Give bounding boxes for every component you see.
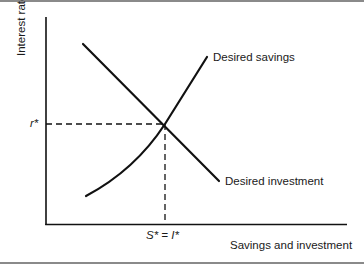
- equilibrium-quantity-label: S* = I*: [146, 230, 179, 242]
- r-star-label: r*: [30, 118, 38, 130]
- desired-investment-line: [83, 44, 219, 181]
- desired-savings-label: Desired savings: [213, 52, 295, 64]
- y-axis-label: Interest rate: [16, 0, 28, 56]
- x-axis-label: Savings and investment: [230, 240, 352, 252]
- desired-savings-curve: [86, 57, 207, 196]
- diagram-canvas: [0, 0, 364, 265]
- desired-investment-label: Desired investment: [225, 176, 323, 188]
